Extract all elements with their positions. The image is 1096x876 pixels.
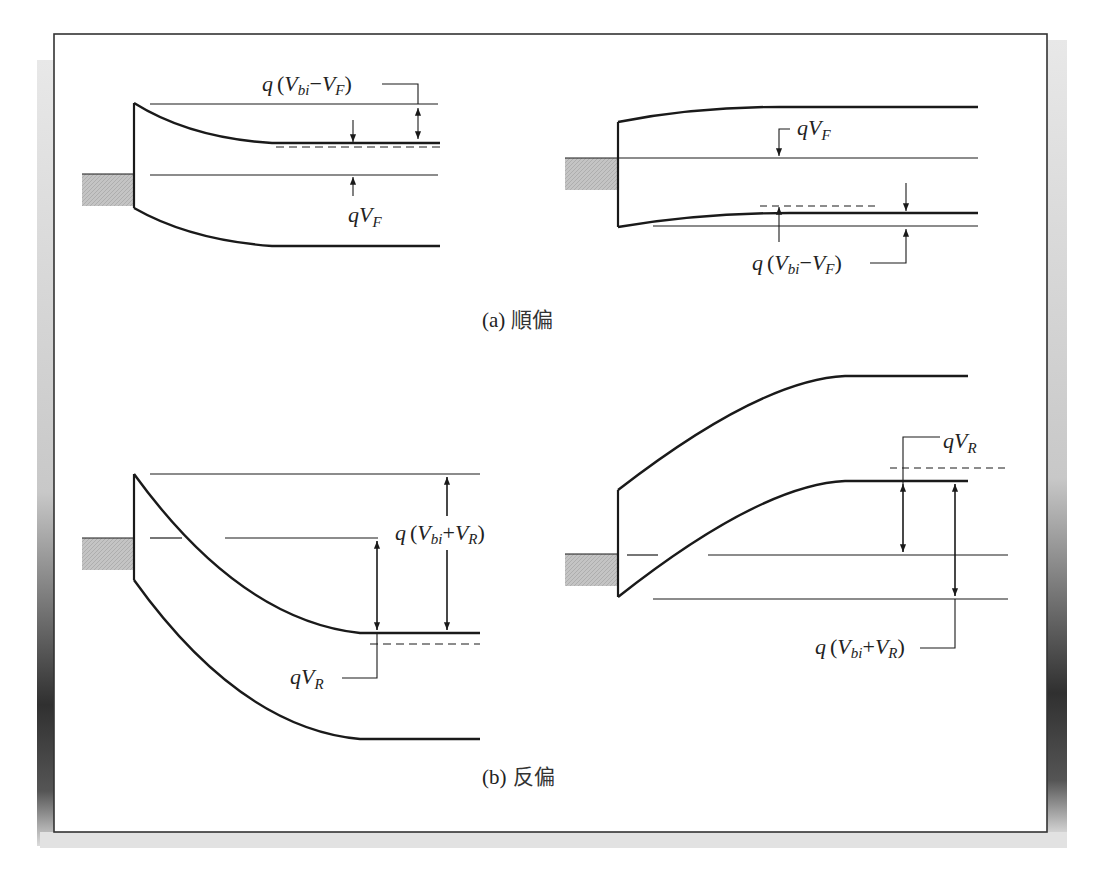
band-diagram-figure: q(Vbi−VF) qVF qVF q(Vbi−VF) (a)順偏 (0, 0, 1096, 876)
caption-a: (a)順偏 (482, 308, 553, 332)
frame-shadow-right (1047, 40, 1067, 836)
caption-b: (b)反偏 (482, 765, 555, 789)
metal-block (82, 174, 134, 206)
metal-block (565, 554, 618, 586)
frame-shadow-bottom (40, 832, 1067, 848)
frame-shadow-left (37, 60, 54, 846)
figure-frame (54, 34, 1047, 832)
metal-block (565, 158, 618, 190)
metal-block (82, 538, 134, 570)
